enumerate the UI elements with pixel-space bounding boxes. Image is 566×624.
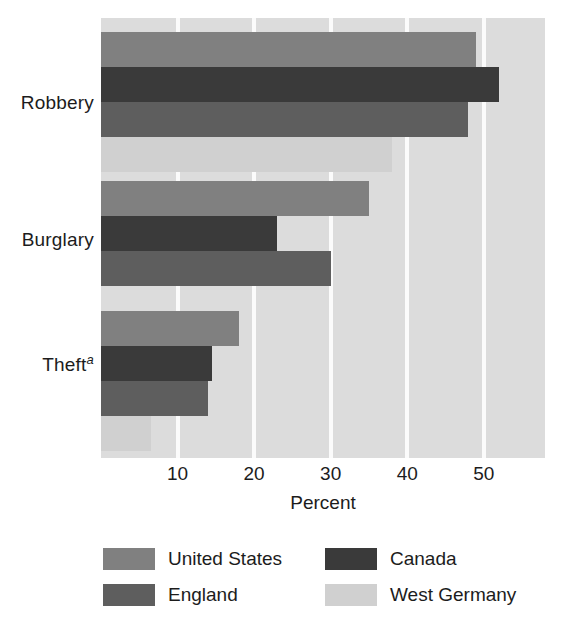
x-axis-title: Percent — [101, 492, 545, 514]
legend-item-canada: Canada — [325, 548, 457, 570]
legend-item-west-germany: West Germany — [325, 584, 516, 606]
x-tick-label-10: 10 — [167, 463, 188, 485]
legend-swatch-west-germany — [325, 584, 377, 606]
x-tick-label-20: 20 — [244, 463, 265, 485]
legend-label: United States — [168, 548, 282, 570]
category-label-text: Robbery — [21, 92, 94, 113]
chart-legend: United StatesCanadaEnglandWest Germany — [103, 548, 523, 612]
x-tick-label-40: 40 — [397, 463, 418, 485]
category-label-burglary: Burglary — [0, 229, 94, 251]
x-tick-label-50: 50 — [473, 463, 494, 485]
legend-label: West Germany — [390, 584, 516, 606]
legend-swatch-england — [103, 584, 155, 606]
legend-label: England — [168, 584, 238, 606]
bar-chart-figure: RobberyBurglaryThefta 1020304050 Percent… — [0, 0, 566, 624]
category-axis-labels: RobberyBurglaryThefta — [0, 0, 566, 624]
footnote-marker: a — [87, 352, 94, 367]
category-label-text: Theft — [42, 354, 86, 375]
legend-swatch-united-states — [103, 548, 155, 570]
legend-label: Canada — [390, 548, 457, 570]
x-axis-tick-labels: 1020304050 — [101, 463, 545, 489]
legend-swatch-canada — [325, 548, 377, 570]
category-label-text: Burglary — [22, 229, 94, 250]
category-label-robbery: Robbery — [0, 92, 94, 114]
category-label-theft: Thefta — [0, 354, 94, 376]
x-tick-label-30: 30 — [320, 463, 341, 485]
legend-item-england: England — [103, 584, 238, 606]
legend-item-united-states: United States — [103, 548, 282, 570]
